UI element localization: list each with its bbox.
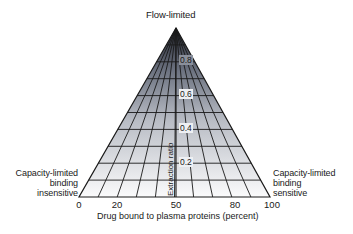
y-tick-0.4: 0.4 <box>179 123 193 133</box>
left-label-line-1: Capacity-limited <box>16 168 78 178</box>
left-label-line-3: insensitive <box>16 188 78 198</box>
x-tick-80: 80 <box>230 199 241 210</box>
x-tick-50: 50 <box>171 199 182 210</box>
extraction-ratio-triangle-diagram: Flow-limited Capacity-limited binding in… <box>0 0 353 234</box>
x-axis-label: Drug bound to plasma proteins (percent) <box>97 211 259 221</box>
y-axis-label: Extraction ratio <box>166 143 175 196</box>
right-label-line-3: sensitive <box>273 188 335 198</box>
right-label-line-1: Capacity-limited <box>273 168 335 178</box>
y-tick-0.2: 0.2 <box>179 157 193 167</box>
x-tick-100: 100 <box>264 199 280 210</box>
left-label-line-2: binding <box>16 178 78 188</box>
y-tick-0.8: 0.8 <box>179 55 193 65</box>
y-tick-0.6: 0.6 <box>179 89 193 99</box>
right-label-line-2: binding <box>273 178 335 188</box>
x-tick-20: 20 <box>112 199 123 210</box>
flow-limited-label: Flow-limited <box>146 10 195 20</box>
capacity-limited-insensitive-label: Capacity-limited binding insensitive <box>16 168 78 198</box>
x-tick-0: 0 <box>76 199 81 210</box>
capacity-limited-sensitive-label: Capacity-limited binding sensitive <box>273 168 335 198</box>
